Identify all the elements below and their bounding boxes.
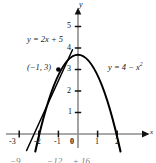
cropped-text-row: −9 −12 + 16	[10, 157, 90, 163]
x-tick-label--3: -3	[9, 138, 16, 146]
cropped-text-a: −9	[10, 157, 21, 163]
cropped-text-c: + 16	[73, 157, 90, 163]
y-tick-label-1: 1	[68, 108, 72, 116]
line-equation-label: y = 2x + 5	[27, 35, 63, 44]
parabola-exponent: 2	[140, 61, 143, 67]
parabola-equation-label: y = 4 − x2	[108, 62, 143, 71]
x-axis-arrow-icon	[142, 131, 150, 138]
x-tick-label--2: -2	[34, 138, 41, 146]
parabola-equation-text: y = 4 − x	[108, 62, 140, 72]
point-coordinate-label: (−1, 3)	[27, 63, 51, 72]
tangency-point-marker	[56, 67, 61, 72]
x-tick-label--1: -1	[54, 138, 61, 146]
x-axis-name-label: x	[150, 129, 153, 136]
y-tick-label-5: 5	[67, 22, 71, 30]
y-tick-label-4: 4	[67, 44, 71, 52]
x-tick-label-0: 0	[70, 138, 74, 146]
graph-figure: -3 -2 -1 0 1 2 1 2 3 4 5 y x y = 2x + 5 …	[0, 0, 156, 163]
y-axis-name-label: y	[79, 1, 83, 9]
cropped-text-b: −12	[47, 157, 62, 163]
plot-canvas	[0, 0, 156, 163]
x-tick-label-2: 2	[115, 138, 119, 146]
x-tick-label-1: 1	[95, 138, 99, 146]
y-tick-label-2: 2	[67, 87, 71, 95]
y-tick-label-3: 3	[67, 65, 71, 73]
